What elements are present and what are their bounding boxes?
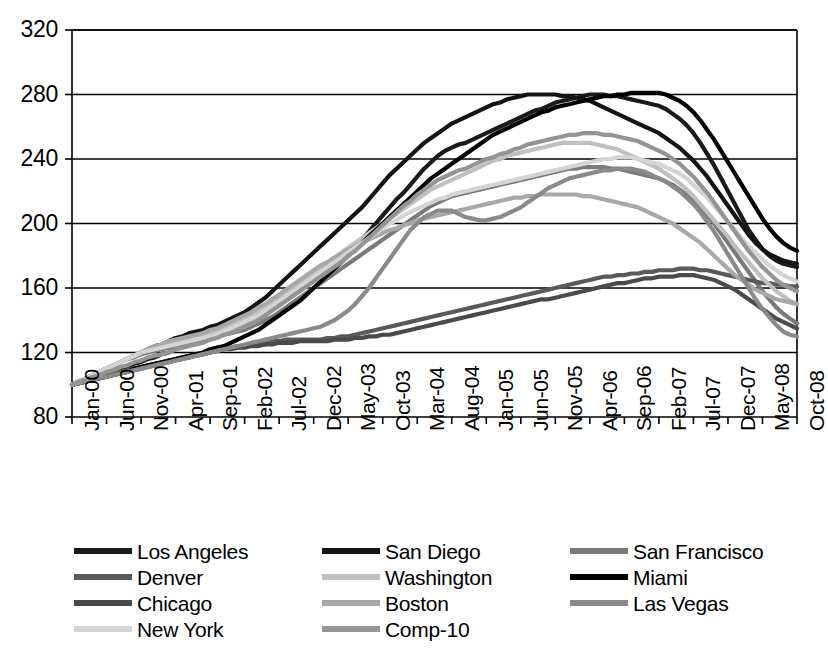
- legend-label: Chicago: [137, 593, 212, 614]
- x-axis-tick-label: Apr-01: [184, 370, 208, 431]
- y-axis-tick-label: 240: [0, 145, 58, 172]
- x-axis-tick-label: Jan-00: [80, 369, 104, 431]
- y-axis-tick-label: 280: [0, 81, 58, 108]
- x-axis-tick-label: Jan-05: [494, 369, 518, 431]
- legend-swatch: [570, 574, 628, 580]
- x-axis-tick-label: Jun-00: [115, 369, 139, 431]
- legend-label: Denver: [137, 567, 203, 588]
- series-lines: [72, 93, 797, 385]
- x-axis-tick-label: Oct-08: [805, 370, 828, 431]
- legend-label: Las Vegas: [633, 593, 728, 614]
- legend-swatch: [322, 626, 380, 632]
- x-axis-tick-label: Jun-05: [529, 369, 553, 431]
- legend-swatch: [74, 548, 132, 554]
- x-axis-tick-label: Apr-06: [598, 370, 622, 431]
- legend-item[interactable]: San Diego: [322, 538, 480, 564]
- x-axis-tick-label: Feb-07: [667, 367, 691, 431]
- y-axis-tick-label: 320: [0, 16, 58, 43]
- legend-swatch: [322, 548, 380, 554]
- series-line: [72, 133, 797, 385]
- legend-swatch: [74, 626, 132, 632]
- x-axis-tick-label: Nov-05: [563, 366, 587, 431]
- legend-item[interactable]: Las Vegas: [570, 590, 728, 616]
- x-axis-tick-label: Aug-04: [460, 366, 484, 431]
- x-axis-tick-label: Jul-02: [287, 376, 311, 431]
- legend-label: San Francisco: [633, 541, 763, 562]
- legend-label: Washington: [385, 567, 492, 588]
- chart-legend: Los AngelesDenverChicagoNew YorkSan Dieg…: [74, 538, 774, 638]
- x-axis-tick-label: Dec-02: [322, 366, 346, 431]
- legend-label: Comp-10: [385, 619, 469, 640]
- x-axis-tick-label: Sep-06: [632, 366, 656, 431]
- x-axis-tick-label: Nov-00: [149, 366, 173, 431]
- legend-swatch: [570, 548, 628, 554]
- legend-swatch: [322, 600, 380, 606]
- legend-swatch: [74, 600, 132, 606]
- legend-label: Miami: [633, 567, 688, 588]
- legend-swatch: [570, 600, 628, 606]
- line-chart: 80120160200240280320 Jan-00Jun-00Nov-00A…: [0, 0, 828, 651]
- legend-label: Boston: [385, 593, 449, 614]
- x-axis-tick-label: Mar-04: [425, 367, 449, 431]
- x-axis-tick-label: Oct-03: [391, 370, 415, 431]
- legend-item[interactable]: Boston: [322, 590, 449, 616]
- x-axis-tick-label: Feb-02: [253, 367, 277, 431]
- y-axis-ticks: [65, 30, 72, 417]
- legend-item[interactable]: Comp-10: [322, 616, 469, 642]
- legend-label: San Diego: [385, 541, 480, 562]
- x-axis-tick-label: May-03: [356, 363, 380, 431]
- legend-swatch: [74, 574, 132, 580]
- y-axis-tick-label: 160: [0, 274, 58, 301]
- legend-label: Los Angeles: [137, 541, 248, 562]
- y-axis-tick-label: 200: [0, 210, 58, 237]
- y-axis-tick-label: 80: [0, 403, 58, 430]
- x-axis-tick-label: Jul-07: [701, 376, 725, 431]
- x-axis-tick-label: Dec-07: [736, 366, 760, 431]
- legend-item[interactable]: Washington: [322, 564, 492, 590]
- legend-item[interactable]: Chicago: [74, 590, 212, 616]
- y-axis-tick-label: 120: [0, 339, 58, 366]
- legend-label: New York: [137, 619, 223, 640]
- x-axis-tick-label: Sep-01: [218, 366, 242, 431]
- legend-item[interactable]: Los Angeles: [74, 538, 248, 564]
- x-axis-tick-label: May-08: [770, 363, 794, 431]
- legend-swatch: [322, 574, 380, 580]
- legend-item[interactable]: New York: [74, 616, 223, 642]
- legend-item[interactable]: Miami: [570, 564, 688, 590]
- legend-item[interactable]: Denver: [74, 564, 203, 590]
- legend-item[interactable]: San Francisco: [570, 538, 763, 564]
